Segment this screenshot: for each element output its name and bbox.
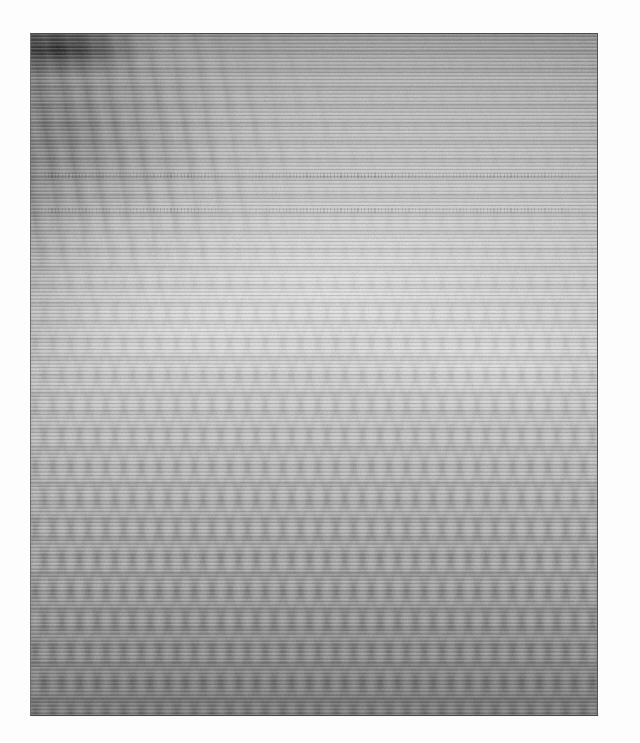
grain-highlight-layer xyxy=(31,34,598,716)
scanline-beat-layer xyxy=(31,34,597,715)
bright-hotspot-layer xyxy=(31,34,597,715)
illegible-text-row-2 xyxy=(31,208,597,213)
panel-drop-shadow xyxy=(31,714,599,717)
upper-left-shadow-blob xyxy=(31,34,597,715)
bottom-vignette-layer xyxy=(31,34,597,715)
chevron-moire-layer-b xyxy=(31,34,597,715)
horizontal-tone-layer xyxy=(31,34,597,715)
scanned-image-panel xyxy=(30,33,598,716)
diagonal-smear-layer xyxy=(31,34,597,715)
grain-noise-layer xyxy=(31,34,598,716)
image-canvas: Degraded grayscale scanned image with he… xyxy=(0,0,640,743)
tone-gradient-layer xyxy=(31,34,597,715)
scanline-layer xyxy=(31,34,597,715)
image-alt-text: Degraded grayscale scanned image with he… xyxy=(0,0,1,1)
chevron-moire-layer-a xyxy=(31,34,597,715)
illegible-text-row-1 xyxy=(31,173,597,178)
top-left-dark-blob xyxy=(31,34,597,715)
